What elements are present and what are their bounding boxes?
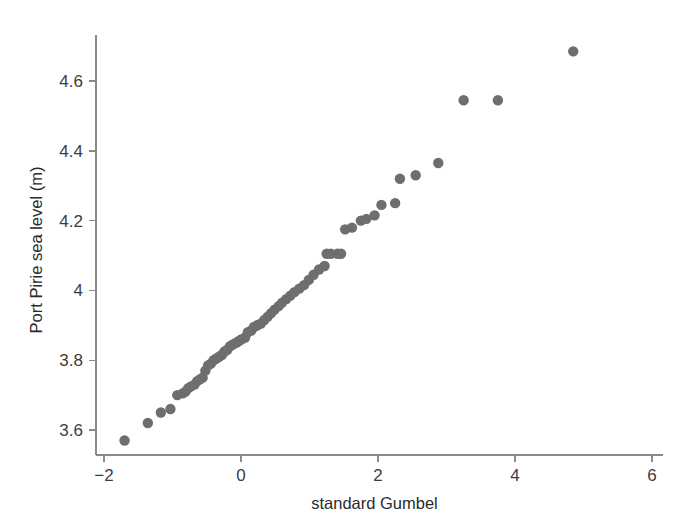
y-tick-label: 4.2 — [59, 212, 83, 231]
plot-canvas: −202463.63.844.24.44.6 standard GumbelPo… — [0, 0, 700, 521]
data-point — [336, 249, 346, 259]
data-point — [395, 174, 405, 184]
data-point — [319, 261, 329, 271]
data-point — [369, 210, 379, 220]
y-tick-label: 3.8 — [59, 351, 83, 370]
x-tick-label: 0 — [236, 466, 245, 485]
x-tick-label: −2 — [94, 466, 113, 485]
y-tick-label: 3.6 — [59, 421, 83, 440]
y-axis-title: Port Pirie sea level (m) — [27, 167, 45, 334]
data-point — [410, 170, 420, 180]
y-tick-label: 4.4 — [59, 142, 83, 161]
y-tick-label: 4 — [74, 281, 83, 300]
data-point — [433, 158, 443, 168]
data-points-group — [119, 46, 578, 446]
data-point — [493, 95, 503, 105]
x-tick-label: 4 — [510, 466, 519, 485]
data-point — [376, 200, 386, 210]
y-tick-label: 4.6 — [59, 72, 83, 91]
scatter-plot-figure: −202463.63.844.24.44.6 standard GumbelPo… — [0, 0, 700, 521]
x-tick-label: 6 — [647, 466, 656, 485]
data-point — [347, 222, 357, 232]
data-point — [165, 404, 175, 414]
x-axis-title: standard Gumbel — [311, 494, 438, 512]
data-point — [143, 418, 153, 428]
data-point — [156, 407, 166, 417]
x-tick-label: 2 — [373, 466, 382, 485]
data-point — [390, 198, 400, 208]
data-point — [119, 435, 129, 445]
data-point — [458, 95, 468, 105]
data-point — [568, 46, 578, 56]
